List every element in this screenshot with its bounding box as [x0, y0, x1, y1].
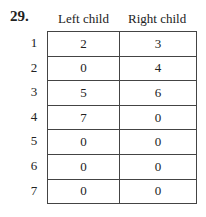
right-child-cell: 4 — [120, 56, 197, 81]
row-label: 2 — [28, 56, 40, 81]
table-row: 2 3 — [48, 32, 197, 57]
child-table: 2 3 0 4 5 6 7 0 0 0 0 0 0 0 — [47, 31, 197, 204]
table-row: 0 4 — [48, 56, 197, 81]
table-row: 0 0 — [48, 179, 197, 204]
right-child-cell: 3 — [120, 32, 197, 57]
left-child-cell: 0 — [48, 154, 120, 179]
row-label: 6 — [28, 154, 40, 179]
row-labels: 1 2 3 4 5 6 7 — [28, 31, 40, 203]
row-label: 7 — [28, 179, 40, 204]
left-child-cell: 2 — [48, 32, 120, 57]
table-row: 0 0 — [48, 154, 197, 179]
right-child-cell: 6 — [120, 81, 197, 106]
left-child-cell: 0 — [48, 179, 120, 204]
row-label: 3 — [28, 80, 40, 105]
right-child-cell: 0 — [120, 154, 197, 179]
right-child-cell: 0 — [120, 179, 197, 204]
row-label: 4 — [28, 105, 40, 130]
right-child-cell: 0 — [120, 130, 197, 155]
problem-number: 29. — [10, 8, 29, 25]
table-row: 7 0 — [48, 105, 197, 130]
left-child-cell: 5 — [48, 81, 120, 106]
row-label: 5 — [28, 129, 40, 154]
left-child-cell: 0 — [48, 130, 120, 155]
header-left-child: Left child — [58, 11, 109, 27]
right-child-cell: 0 — [120, 105, 197, 130]
row-label: 1 — [28, 31, 40, 56]
table-row: 0 0 — [48, 130, 197, 155]
left-child-cell: 7 — [48, 105, 120, 130]
table-row: 5 6 — [48, 81, 197, 106]
header-right-child: Right child — [128, 11, 186, 27]
left-child-cell: 0 — [48, 56, 120, 81]
